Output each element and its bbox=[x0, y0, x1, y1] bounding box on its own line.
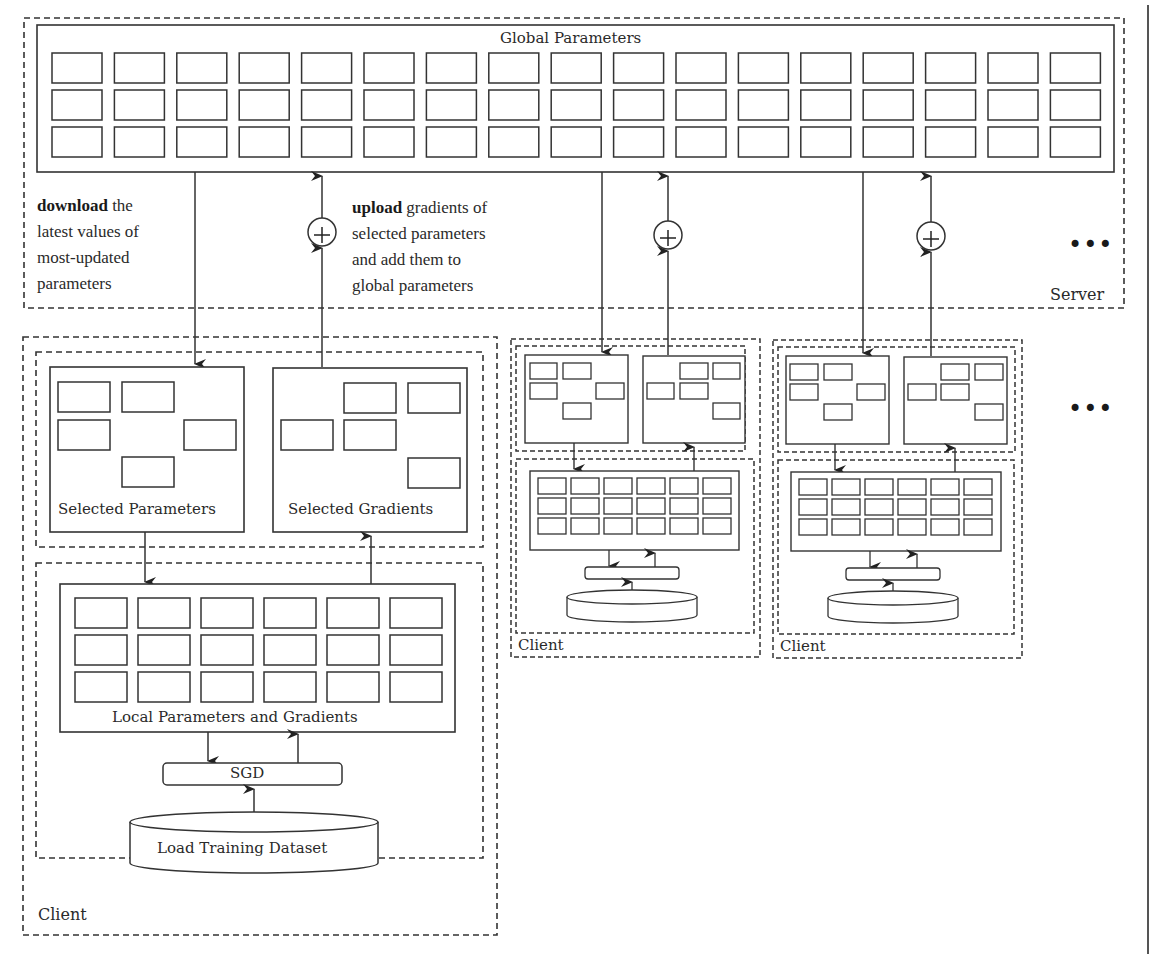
client-2-label: Client bbox=[518, 638, 564, 653]
upload-note: upload gradients of selected parameters … bbox=[352, 195, 487, 299]
more-clients-ellipsis: ••• bbox=[1068, 397, 1113, 421]
upload-note-line-3: and add them to bbox=[352, 247, 487, 273]
client-2-sgd-box bbox=[585, 567, 679, 579]
client-3-dataset-cylinder bbox=[828, 591, 958, 623]
client-2-local-parameters-box bbox=[530, 471, 739, 550]
client-3-sgd-box bbox=[846, 568, 940, 580]
download-note-line-3: most-updated bbox=[37, 245, 139, 271]
selected-gradients-label: Selected Gradients bbox=[288, 502, 433, 517]
federated-learning-diagram: Global Parameters download the latest va… bbox=[0, 0, 1160, 954]
more-clients-ellipsis-server: ••• bbox=[1068, 233, 1113, 257]
client-3-local-parameters-box bbox=[791, 472, 1001, 551]
client-1-label: Client bbox=[38, 907, 87, 923]
download-note: download the latest values of most-updat… bbox=[37, 193, 139, 297]
download-note-line-4: parameters bbox=[37, 271, 139, 297]
global-parameters-title: Global Parameters bbox=[500, 31, 641, 46]
download-note-line-1: the bbox=[108, 196, 133, 215]
server-label: Server bbox=[1050, 287, 1104, 303]
upload-keyword: upload bbox=[352, 198, 402, 217]
client-2-dataset-cylinder bbox=[567, 590, 697, 622]
selected-parameters-label: Selected Parameters bbox=[58, 502, 216, 517]
sgd-label: SGD bbox=[230, 766, 264, 781]
upload-note-line-4: global parameters bbox=[352, 273, 487, 299]
upload-note-line-1: gradients of bbox=[402, 198, 487, 217]
upload-note-line-2: selected parameters bbox=[352, 221, 487, 247]
download-keyword: download bbox=[37, 196, 108, 215]
global-parameters-box bbox=[37, 25, 1114, 172]
download-note-line-2: latest values of bbox=[37, 219, 139, 245]
dataset-label: Load Training Dataset bbox=[157, 841, 327, 856]
local-parameters-label: Local Parameters and Gradients bbox=[112, 710, 358, 725]
client-3-label: Client bbox=[780, 639, 826, 654]
diagram-canvas bbox=[0, 0, 1160, 954]
